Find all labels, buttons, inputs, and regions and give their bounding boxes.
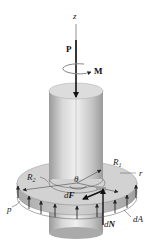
z-axis-label: z	[72, 11, 77, 21]
radius-r-label: r	[139, 168, 143, 178]
upper-shaft	[49, 83, 103, 188]
angle-theta-label: θ	[74, 174, 79, 184]
dF-label: dF	[64, 190, 75, 200]
collar-bearing-diagram: z P M R2 R1 r θ dF dN	[0, 0, 156, 250]
area-element-label: dA	[133, 214, 144, 224]
dN-label: dN	[104, 219, 116, 229]
pressure-label: p	[6, 204, 12, 214]
moment-m: M	[63, 64, 103, 76]
moment-m-label: M	[94, 66, 103, 76]
force-p-label: P	[66, 44, 72, 54]
inner-radius-label: R1	[112, 157, 122, 168]
